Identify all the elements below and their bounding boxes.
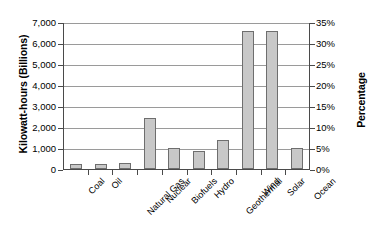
y-axis-tick-label: 4,000 <box>0 81 56 91</box>
secondary-y-axis-tick-label: 35% <box>316 18 356 28</box>
secondary-y-axis-tick-mark <box>310 107 315 108</box>
secondary-y-axis-tick-mark <box>310 23 315 24</box>
bar <box>95 164 107 169</box>
bar-slot <box>236 23 261 169</box>
bar-slot <box>285 23 310 169</box>
bar <box>144 118 156 169</box>
x-axis-tick-mark <box>112 170 113 175</box>
bar-slot <box>187 23 212 169</box>
bar <box>193 151 205 169</box>
secondary-y-axis-tick-mark <box>310 65 315 66</box>
x-axis-tick-mark <box>211 170 212 175</box>
x-axis-tick-mark <box>88 170 89 175</box>
bar-slot <box>260 23 285 169</box>
secondary-y-axis-tick-label: 10% <box>316 123 356 133</box>
x-axis-tick-label: Solar <box>285 176 307 198</box>
y-axis-tick-label: 1,000 <box>0 144 56 154</box>
secondary-y-axis-tick-label: 25% <box>316 60 356 70</box>
bar <box>217 140 229 169</box>
secondary-y-axis-tick-label: 0% <box>316 165 356 175</box>
bar-slot <box>211 23 236 169</box>
bar <box>168 148 180 169</box>
bar-slot <box>64 23 89 169</box>
x-axis-tick-mark <box>137 170 138 175</box>
x-axis-tick-mark <box>236 170 237 175</box>
secondary-y-axis-tick-mark <box>310 44 315 45</box>
y-axis-tick-label: 6,000 <box>0 39 56 49</box>
secondary-y-axis-tick-label: 15% <box>316 102 356 112</box>
secondary-y-axis-tick-label: 30% <box>316 39 356 49</box>
x-axis-tick-mark <box>187 170 188 175</box>
secondary-y-axis-title: Percentage <box>355 45 367 155</box>
secondary-y-axis-tick-mark <box>310 86 315 87</box>
x-axis-tick-label: Oil <box>109 176 124 191</box>
secondary-y-axis-tick-mark <box>310 149 315 150</box>
bar <box>266 31 278 169</box>
bar <box>291 148 303 169</box>
plot-area <box>63 23 310 170</box>
x-axis-tick-mark <box>285 170 286 175</box>
bar <box>119 163 131 169</box>
y-axis-tick-label: 0 <box>0 165 56 175</box>
y-axis-tick-mark <box>58 170 63 171</box>
bar-slot <box>162 23 187 169</box>
x-axis-tick-mark <box>261 170 262 175</box>
secondary-y-axis-tick-label: 20% <box>316 81 356 91</box>
bar <box>70 164 82 169</box>
bar-slot <box>113 23 138 169</box>
secondary-y-axis-tick-mark <box>310 128 315 129</box>
secondary-y-axis-tick-label: 5% <box>316 144 356 154</box>
bar-chart-figure: Kilowatt-hours (Billions) Percentage 01,… <box>0 0 371 229</box>
y-axis-tick-label: 7,000 <box>0 18 56 28</box>
x-axis-tick-label: Ocean <box>311 176 337 202</box>
x-axis-tick-mark <box>162 170 163 175</box>
y-axis-tick-label: 2,000 <box>0 123 56 133</box>
y-axis-tick-label: 5,000 <box>0 60 56 70</box>
x-axis-tick-label: Coal <box>87 176 107 196</box>
y-axis-tick-label: 3,000 <box>0 102 56 112</box>
secondary-y-axis-tick-mark <box>310 170 315 171</box>
bar <box>242 31 254 169</box>
bars-container <box>64 23 309 169</box>
bar-slot <box>89 23 114 169</box>
bar-slot <box>138 23 163 169</box>
